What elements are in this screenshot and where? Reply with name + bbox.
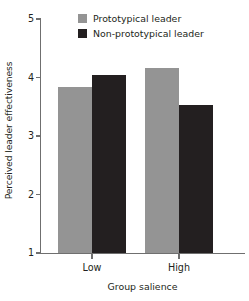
x-tick-high <box>178 254 179 259</box>
x-axis-line <box>40 253 245 254</box>
y-tick-label-3: 3 <box>4 130 34 141</box>
bar-chart-figure: Perceived leader effectiveness 12345 Low… <box>0 0 249 301</box>
y-tick-2 <box>36 194 41 195</box>
bar-low-prototypical <box>58 87 92 253</box>
y-tick-3 <box>36 135 41 136</box>
legend-item-non-prototypical: Non-prototypical leader <box>78 26 204 40</box>
legend-label-prototypical: Prototypical leader <box>93 13 181 24</box>
x-tick-label-low: Low <box>57 262 127 273</box>
x-axis-title: Group salience <box>40 281 245 292</box>
legend-swatch-gray-icon <box>78 14 87 23</box>
y-tick-4 <box>36 77 41 78</box>
bar-high-non-prototypical <box>179 105 213 253</box>
y-tick-label-1: 1 <box>4 247 34 258</box>
y-tick-5 <box>36 18 41 19</box>
bar-low-non-prototypical <box>92 75 126 253</box>
legend: Prototypical leader Non-prototypical lea… <box>78 11 204 41</box>
legend-item-prototypical: Prototypical leader <box>78 11 204 25</box>
y-tick-label-5: 5 <box>4 13 34 24</box>
x-tick-low <box>91 254 92 259</box>
x-tick-label-high: High <box>144 262 214 273</box>
y-tick-label-4: 4 <box>4 72 34 83</box>
legend-label-non-prototypical: Non-prototypical leader <box>93 28 204 39</box>
bar-high-prototypical <box>145 68 179 253</box>
y-tick-label-2: 2 <box>4 189 34 200</box>
legend-swatch-black-icon <box>78 29 87 38</box>
y-tick-1 <box>36 252 41 253</box>
